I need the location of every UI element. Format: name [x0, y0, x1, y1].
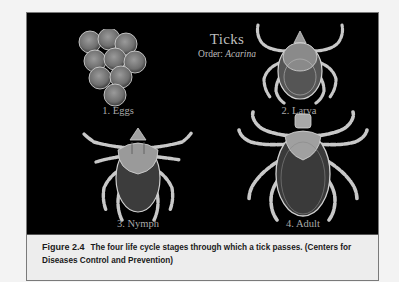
- stage-label-adult: 4. Adult: [286, 218, 320, 229]
- stage-label-eggs: 1. Eggs: [102, 105, 134, 116]
- tick-larva-illustration: [248, 21, 352, 105]
- illustration-panel: Ticks Order: Acarina: [27, 13, 378, 234]
- tick-adult-illustration: [235, 110, 371, 222]
- stage-label-nymph: 3. Nymph: [117, 218, 159, 229]
- figure: Ticks Order: Acarina: [26, 12, 379, 281]
- tick-eggs-illustration: [75, 29, 161, 109]
- caption-text: The four life cycle stages through which…: [42, 243, 351, 265]
- subtitle-prefix: Order:: [198, 49, 225, 59]
- tick-nymph-illustration: [82, 126, 194, 222]
- figure-caption: Figure 2.4The four life cycle stages thr…: [27, 234, 378, 280]
- figure-number: Figure 2.4: [42, 242, 85, 252]
